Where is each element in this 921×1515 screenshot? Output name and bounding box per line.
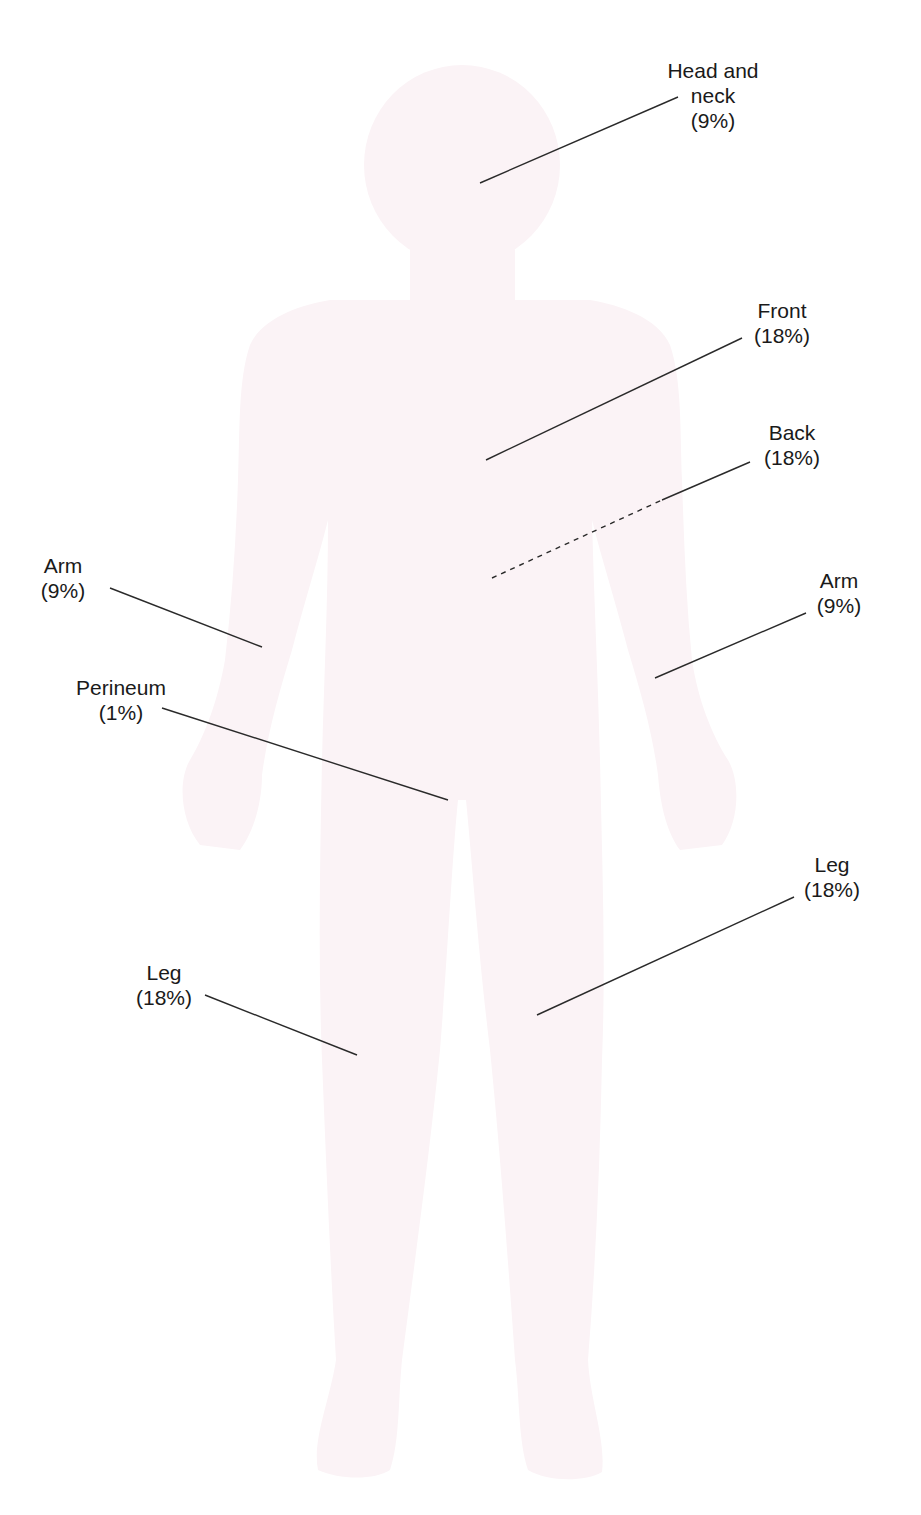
body-silhouette: [183, 65, 737, 1479]
label-front-name: Front: [740, 298, 824, 323]
head-shape: [364, 65, 560, 265]
label-leg-left: Leg (18%): [122, 960, 206, 1010]
label-arm-left-name: Arm: [28, 553, 98, 578]
label-perineum-percent: (1%): [58, 700, 184, 725]
label-back-name: Back: [750, 420, 834, 445]
rule-of-nines-diagram: Head and neck (9%) Front (18%) Back (18%…: [0, 0, 921, 1515]
label-front: Front (18%): [740, 298, 824, 348]
label-head-and-neck-line2: neck: [648, 83, 778, 108]
torso-limbs-shape: [183, 300, 737, 1479]
label-head-and-neck-line1: Head and: [648, 58, 778, 83]
label-leg-right: Leg (18%): [790, 852, 874, 902]
label-perineum: Perineum (1%): [58, 675, 184, 725]
label-arm-left-percent: (9%): [28, 578, 98, 603]
label-head-and-neck-percent: (9%): [648, 108, 778, 133]
label-arm-right: Arm (9%): [804, 568, 874, 618]
label-back-percent: (18%): [750, 445, 834, 470]
label-back: Back (18%): [750, 420, 834, 470]
label-front-percent: (18%): [740, 323, 824, 348]
label-leg-left-name: Leg: [122, 960, 206, 985]
label-leg-right-name: Leg: [790, 852, 874, 877]
label-leg-left-percent: (18%): [122, 985, 206, 1010]
label-arm-left: Arm (9%): [28, 553, 98, 603]
label-leg-right-percent: (18%): [790, 877, 874, 902]
body-silhouette-figure: [0, 0, 921, 1515]
label-arm-right-name: Arm: [804, 568, 874, 593]
label-arm-right-percent: (9%): [804, 593, 874, 618]
label-perineum-name: Perineum: [58, 675, 184, 700]
label-head-and-neck: Head and neck (9%): [648, 58, 778, 133]
